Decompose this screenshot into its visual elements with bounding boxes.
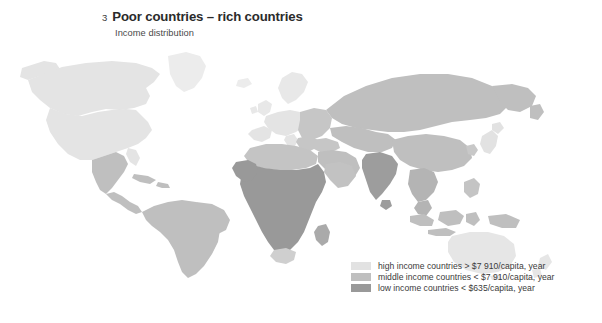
region-mexico: [92, 152, 128, 194]
region-ireland: [250, 106, 258, 114]
world-map-svg: [0, 30, 602, 280]
region-indochina: [408, 168, 438, 202]
region-arabia: [324, 162, 356, 188]
map-regions-layer: [20, 52, 552, 280]
figure-number: 3: [102, 12, 107, 23]
region-borneo: [438, 210, 464, 226]
legend-item-high: high income countries > $7 910/capita, y…: [351, 262, 554, 270]
legend-swatch-high: [351, 262, 371, 270]
region-iberia: [248, 126, 272, 142]
region-china: [392, 134, 472, 172]
legend-swatch-middle: [351, 273, 371, 281]
world-map: [0, 30, 602, 280]
region-british-isles: [258, 100, 272, 116]
region-russia: [326, 74, 508, 132]
legend: high income countries > $7 910/capita, y…: [351, 262, 554, 292]
legend-item-low: low income countries < $635/capita, year: [351, 284, 554, 292]
region-java: [428, 228, 456, 236]
region-south-africa: [270, 248, 296, 264]
region-greenland: [168, 52, 206, 92]
region-philippines: [464, 178, 480, 198]
region-eastern-europe: [298, 108, 332, 140]
region-sri-lanka: [380, 200, 392, 210]
region-caribbean-cuba: [132, 174, 156, 184]
legend-label-middle: middle income countries < $7 910/capita,…: [378, 273, 554, 282]
region-kamchatka: [530, 104, 544, 120]
region-malay-peninsula: [414, 200, 432, 216]
region-iceland: [236, 78, 252, 88]
legend-label-low: low income countries < $635/capita, year: [378, 284, 535, 293]
region-sulawesi: [466, 212, 480, 226]
region-japan: [480, 130, 498, 154]
region-madagascar: [314, 224, 330, 246]
region-central-america: [106, 192, 142, 214]
figure-container: 3 Poor countries – rich countries Income…: [0, 0, 602, 323]
title-row: 3 Poor countries – rich countries: [102, 9, 522, 24]
legend-swatch-low: [351, 284, 371, 292]
region-us-florida: [126, 148, 140, 166]
legend-label-high: high income countries > $7 910/capita, y…: [378, 262, 545, 271]
region-caribbean-hispaniola: [156, 182, 170, 188]
region-sumatra: [410, 214, 434, 226]
page-title: Poor countries – rich countries: [112, 9, 302, 24]
region-turkey: [312, 138, 340, 152]
region-new-guinea: [488, 214, 520, 228]
region-india: [362, 152, 398, 200]
legend-item-middle: middle income countries < $7 910/capita,…: [351, 273, 554, 281]
region-scandinavia: [278, 72, 308, 104]
